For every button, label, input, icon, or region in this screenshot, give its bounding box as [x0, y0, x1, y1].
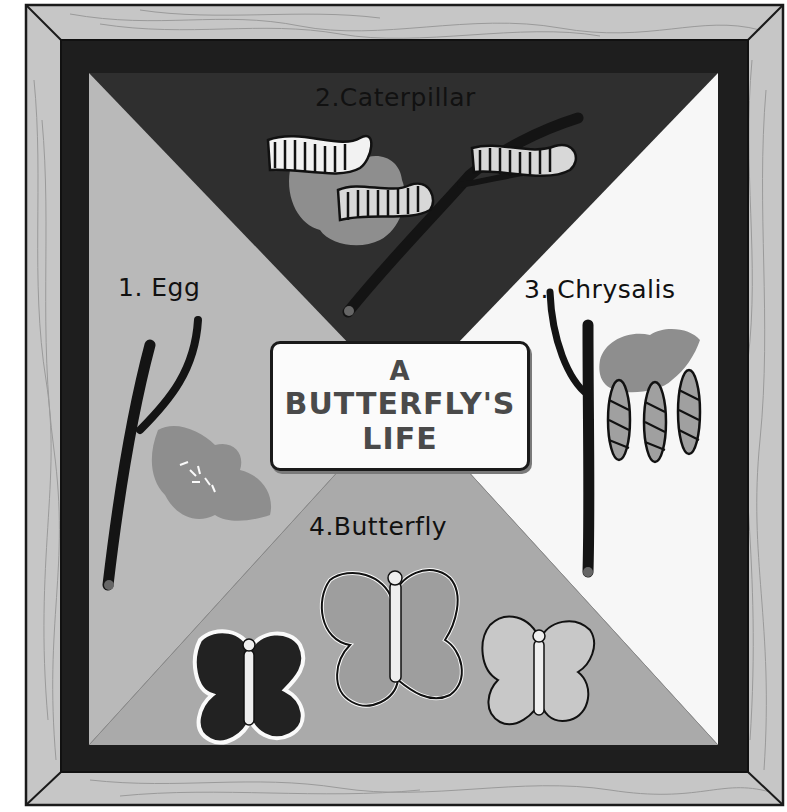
butterfly-icon: [482, 617, 594, 725]
chrysalis-icon: [608, 370, 700, 462]
stage-label-caterpillar: 2.Caterpillar: [315, 83, 476, 112]
title-line-3: LIFE: [362, 424, 437, 454]
butterfly-icon: [322, 570, 462, 706]
caterpillar-icon: [268, 136, 371, 173]
title-line-1: A: [389, 358, 410, 384]
stage-label-butterfly: 4.Butterfly: [309, 512, 447, 541]
caterpillar-icon: [472, 145, 576, 176]
title-sign: A BUTTERFLY'S LIFE: [270, 341, 530, 471]
caterpillar-icon: [338, 184, 433, 220]
stage-label-chrysalis: 3. Chrysalis: [524, 275, 675, 304]
butterfly-icon: [195, 631, 303, 742]
butterfly-life-cycle-board: 2.Caterpillar 1. Egg 3. Chrysalis 4.Butt…: [0, 0, 787, 812]
branch-icon: [588, 325, 589, 572]
stage-label-egg: 1. Egg: [118, 273, 200, 302]
title-line-2: BUTTERFLY'S: [285, 389, 516, 419]
